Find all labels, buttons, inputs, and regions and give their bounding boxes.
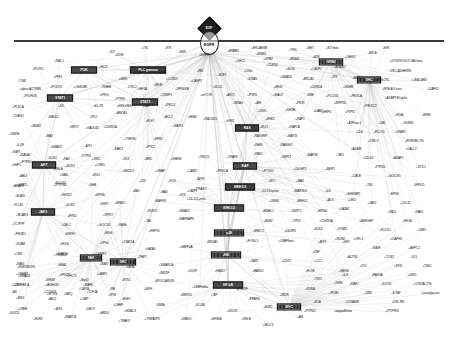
gene-label[interactable]: +WASF	[372, 248, 381, 251]
gene-label[interactable]: +CRMP1	[160, 94, 172, 97]
gene-label[interactable]: +ADAPTIN alpha	[385, 97, 407, 100]
gene-label[interactable]: +PROFILIN	[23, 96, 36, 99]
gene-label[interactable]: +CASP1	[310, 68, 321, 71]
gene-label[interactable]: +Lactoglycase	[421, 292, 440, 295]
gene-label[interactable]: +SMAD4	[280, 76, 292, 79]
gene-label[interactable]: +MEF2C	[296, 200, 308, 203]
gene-label[interactable]: +ERG	[16, 297, 24, 300]
gene-label[interactable]: +PIK3C2	[363, 105, 376, 109]
gene-label[interactable]: +CDC42	[400, 203, 410, 206]
gene-label[interactable]: +ZYX	[360, 266, 367, 269]
gene-label[interactable]: +TGFBR-A	[15, 284, 30, 287]
gene-label[interactable]: +VE-CADHERIN	[389, 70, 411, 73]
gene-label[interactable]: +TNS1	[422, 265, 431, 268]
gene-label[interactable]: +UBC9	[85, 308, 95, 311]
gene-label[interactable]: +MDM2	[263, 221, 272, 224]
gene-label[interactable]: +CEBPdelta	[192, 286, 208, 289]
gene-label[interactable]: +SUZ12	[9, 312, 20, 315]
gene-label[interactable]: +NPM-ALK trans	[382, 89, 401, 92]
gene-label[interactable]: +BCAR1	[15, 196, 25, 199]
gene-label[interactable]: +ABL1	[19, 175, 28, 178]
gene-label[interactable]: +ETS1	[121, 279, 130, 282]
gene-label[interactable]: +TP53	[89, 117, 97, 120]
gene-label[interactable]: +LAMP1	[97, 274, 107, 277]
gene-label[interactable]: +CALC2	[405, 148, 416, 151]
gene-label[interactable]: +B-RAF	[391, 293, 400, 296]
gene-label[interactable]: +SHP1	[11, 164, 20, 167]
gene-label[interactable]: +CBP	[80, 298, 89, 302]
gene-label[interactable]: +SOCS2	[54, 182, 66, 185]
gene-label[interactable]: +CRKL	[257, 110, 267, 113]
gene-label[interactable]: +AIP5	[352, 77, 360, 80]
gene-label[interactable]: +THRB	[334, 283, 343, 286]
gene-label[interactable]: +RAC1	[54, 60, 64, 63]
gene-label[interactable]: +RASA	[118, 225, 127, 228]
gene-label[interactable]: +ARHGEF	[359, 220, 373, 223]
gene-label[interactable]: +SRC	[91, 158, 100, 162]
gene-label[interactable]: +DUSP1	[293, 168, 306, 172]
gene-label[interactable]: +NFATC3	[252, 231, 263, 234]
gene-label[interactable]: +PTPN11	[374, 167, 385, 170]
gene-label[interactable]: +CSN1	[14, 254, 22, 257]
gene-label[interactable]: +SHB	[88, 184, 96, 187]
gene-label[interactable]: +RBB	[307, 95, 314, 98]
gene-label[interactable]: +TUM1	[18, 81, 27, 84]
gene-label[interactable]: +GAB1	[60, 175, 68, 178]
gene-label[interactable]: +ATPase 2	[347, 122, 361, 125]
gene-label[interactable]: +MYOCARDIN	[154, 280, 174, 283]
gene-label[interactable]: +PRG	[99, 94, 108, 98]
gene-label[interactable]: +TRAF6	[226, 156, 237, 159]
gene-label[interactable]: +PXN	[394, 265, 402, 268]
gene-label[interactable]: +ATM	[313, 57, 320, 60]
gene-label[interactable]: +ERRFI1	[65, 234, 76, 237]
gene-label[interactable]: +NCOA1	[195, 305, 205, 308]
gene-label[interactable]: +CONTACTIN	[413, 283, 432, 286]
gene-label[interactable]: +RPS6KB	[175, 88, 188, 91]
gene-label[interactable]: +PLXCA	[12, 106, 23, 109]
gene-label[interactable]: +MAPK8	[154, 200, 166, 203]
gene-label[interactable]: +SMARCA	[159, 264, 173, 267]
gene-label[interactable]: +HDAC3	[124, 310, 136, 313]
gene-label[interactable]: +MAPK1	[173, 126, 183, 129]
gene-label[interactable]: +BRCA1	[115, 112, 127, 115]
gene-label[interactable]: +PKD2	[165, 104, 176, 108]
gene-label[interactable]: +CBLC	[61, 224, 71, 227]
gene-label[interactable]: +RAB1A	[56, 253, 67, 256]
gene-label[interactable]: +ROCK1	[379, 229, 391, 232]
gene-label[interactable]: +EGR1	[226, 121, 235, 124]
gene-label[interactable]: +RAP1	[12, 152, 20, 155]
gene-label[interactable]: +SPRY2	[103, 215, 113, 218]
gene-label[interactable]: +RAB7	[100, 264, 108, 267]
hub-node-pi3k[interactable]: PI3K	[71, 67, 97, 74]
gene-label[interactable]: +MYC	[268, 181, 275, 184]
gene-label[interactable]: +FFP2	[54, 76, 63, 79]
gene-label[interactable]: +TNFAIP3	[144, 318, 159, 322]
gene-label[interactable]: +STMN1	[337, 229, 347, 232]
gene-label[interactable]: +DYSTROGLYCAN beta	[390, 60, 422, 63]
gene-label[interactable]: +TCF3A	[86, 291, 97, 294]
gene-label[interactable]: +NCOR	[227, 310, 237, 313]
gene-label[interactable]: +STAM	[15, 243, 25, 246]
gene-label[interactable]: +AR	[297, 316, 303, 319]
gene-label[interactable]: +CFL1	[353, 238, 363, 242]
gene-label[interactable]: +ILK	[342, 274, 349, 278]
gene-label[interactable]: +GATA2	[339, 208, 350, 211]
gene-label[interactable]: +TRAF2	[194, 188, 207, 192]
gene-label[interactable]: +ADAM17	[334, 67, 346, 70]
gene-label[interactable]: +TAK1	[336, 155, 344, 158]
gene-label[interactable]: +RIPK1	[281, 156, 291, 159]
gene-label[interactable]: +SMAD7	[178, 210, 190, 213]
gene-label[interactable]: +ATF3	[196, 178, 205, 181]
gene-label[interactable]: +EP300	[317, 210, 328, 213]
gene-label[interactable]: +ERCAB3M	[251, 47, 267, 50]
gene-label[interactable]: +BARX2	[252, 270, 263, 273]
gene-label[interactable]: +CDKN2A	[310, 87, 322, 90]
gene-label[interactable]: +LIMK1	[418, 230, 427, 233]
gene-label[interactable]: +GRF1	[158, 73, 166, 76]
gene-label[interactable]: +PLXK1	[33, 68, 44, 71]
gene-label[interactable]: +FOXO3	[50, 86, 62, 89]
gene-label[interactable]: +KDM	[115, 54, 123, 57]
gene-label[interactable]: +PIK3R	[296, 103, 305, 106]
gene-label[interactable]: +BCL3	[263, 324, 273, 328]
gene-label[interactable]: +PTPN12	[304, 311, 315, 314]
